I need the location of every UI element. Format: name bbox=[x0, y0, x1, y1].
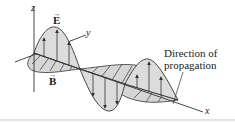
magnetic-field-label: → B bbox=[49, 76, 56, 87]
x-axis-label: x bbox=[205, 106, 209, 116]
propagation-caption: Direction of propagation bbox=[164, 47, 217, 71]
vector-arrow-icon: → bbox=[53, 11, 60, 18]
electric-field-label: → E bbox=[53, 15, 60, 26]
bottom-divider bbox=[0, 119, 235, 121]
z-axis-label: z bbox=[31, 3, 35, 13]
caption-line-2: propagation bbox=[164, 59, 217, 71]
y-axis-label: y bbox=[86, 28, 90, 38]
em-wave-diagram: z y x → E → B Direction of propagation bbox=[0, 0, 235, 122]
vector-arrow-icon: → bbox=[49, 72, 56, 79]
caption-line-1: Direction of bbox=[164, 47, 217, 59]
